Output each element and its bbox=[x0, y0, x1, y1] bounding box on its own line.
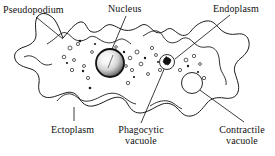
label-pseudopodium: Pseudopodium bbox=[3, 4, 64, 15]
label-endoplasm: Endoplasm bbox=[213, 3, 259, 14]
phagocytic-vacuole bbox=[160, 55, 175, 70]
label-phagocytic-vacuole: Phagocytic vacuole bbox=[110, 124, 172, 146]
label-ectoplasm: Ectoplasm bbox=[51, 124, 94, 135]
label-contractile-line1: Contractile bbox=[219, 124, 265, 135]
nucleus bbox=[96, 49, 124, 77]
label-nucleus: Nucleus bbox=[108, 3, 141, 14]
label-contractile-line2: vacuole bbox=[226, 135, 258, 146]
contractile-vacuole bbox=[182, 73, 203, 94]
label-phagocytic-line2: vacuole bbox=[125, 135, 157, 146]
label-contractile-vacuole: Contractile vacuole bbox=[211, 124, 273, 146]
label-phagocytic-line1: Phagocytic bbox=[118, 124, 163, 135]
amoeba-diagram: Pseudopodium Nucleus Endoplasm Ectoplasm… bbox=[0, 0, 275, 156]
